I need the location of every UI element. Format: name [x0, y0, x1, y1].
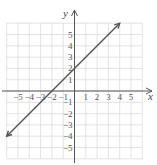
x-tick-label: 4	[117, 92, 122, 102]
y-tick-label: −1	[63, 97, 73, 107]
x-tick-label: −3	[36, 92, 46, 102]
x-axis-label: x	[147, 90, 153, 102]
y-tick-label: 1	[68, 75, 73, 85]
axes	[2, 10, 152, 163]
y-tick-label: −5	[63, 143, 73, 153]
x-tick-label: −4	[25, 92, 35, 102]
x-tick-label: 5	[129, 92, 134, 102]
x-tick-label: 1	[84, 92, 89, 102]
x-tick-label: 3	[106, 92, 111, 102]
y-tick-label: 4	[68, 41, 73, 51]
x-tick-label: 2	[95, 92, 100, 102]
y-axis-label: y	[62, 7, 68, 19]
y-tick-label: 5	[68, 30, 73, 40]
y-tick-label: −3	[63, 120, 73, 130]
x-tick-label: −5	[13, 92, 23, 102]
y-tick-label: −4	[63, 131, 73, 141]
y-tick-label: −2	[63, 109, 73, 119]
coordinate-graph: −5−4−3−2−11234554321−1−2−3−4−5 x y	[0, 0, 157, 165]
y-tick-label: 3	[68, 52, 73, 62]
